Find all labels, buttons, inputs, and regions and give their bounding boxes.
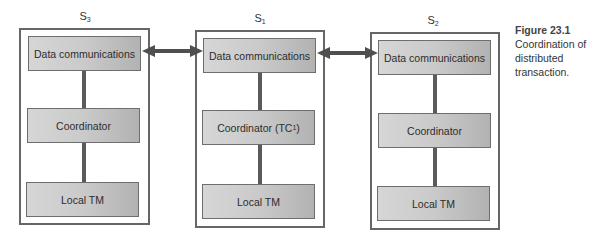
arrowhead-right-icon	[365, 47, 378, 59]
figure-number: Figure 23.1	[515, 23, 607, 37]
arrowhead-left-icon	[142, 45, 155, 57]
arrowhead-left-icon	[317, 47, 330, 59]
figure-caption-text: Coordination of distributed transaction.	[515, 38, 586, 78]
figure-caption: Figure 23.1 Coordination of distributed …	[515, 23, 607, 79]
arrowhead-right-icon	[190, 45, 203, 57]
